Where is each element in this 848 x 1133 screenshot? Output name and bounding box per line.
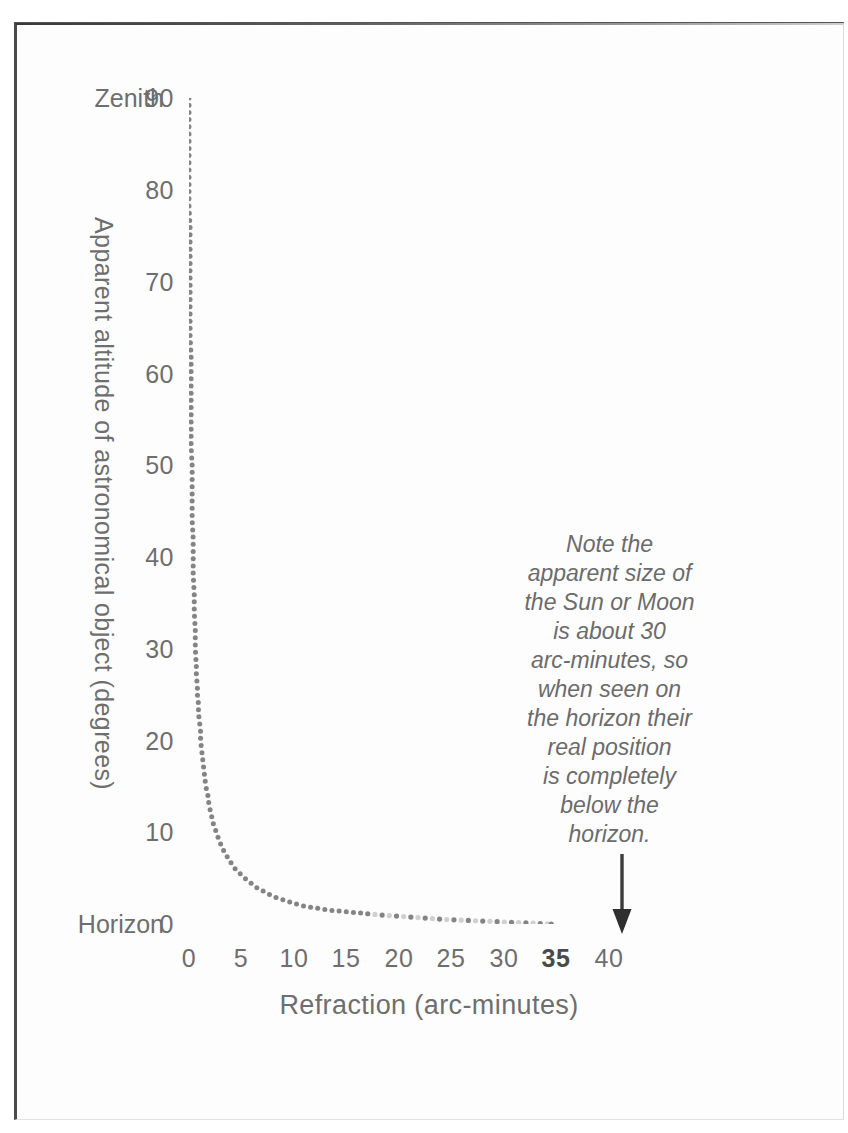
refraction-chart: Zenith Horizon 90 80 70 60 50 40 30 20 1… [14,22,844,1120]
y-tick-20: 20 [122,727,174,756]
x-tick-35: 35 [542,944,571,973]
annotation-line-4: is about 30 [502,617,717,646]
y-tick-30: 30 [122,635,174,664]
y-tick-90: 90 [122,84,174,113]
annotation-line-11: horizon. [502,820,717,849]
y-tick-10: 10 [122,818,174,847]
y-axis-title: Apparent altitude of astronomical object… [89,217,118,817]
x-tick-20: 20 [385,944,414,973]
x-tick-5: 5 [234,944,248,973]
x-tick-15: 15 [332,944,361,973]
annotation-line-10: below the [502,791,717,820]
annotation-arrow-icon [610,854,634,936]
annotation-line-3: the Sun or Moon [502,588,717,617]
y-tick-70: 70 [122,268,174,297]
x-tick-10: 10 [280,944,309,973]
annotation-line-6: when seen on [502,675,717,704]
x-tick-25: 25 [437,944,466,973]
x-tick-40: 40 [595,944,624,973]
annotation-line-7: the horizon their [502,704,717,733]
y-tick-0: 0 [122,910,174,939]
y-tick-80: 80 [122,176,174,205]
y-tick-50: 50 [122,451,174,480]
annotation-line-9: is completely [502,762,717,791]
x-tick-0: 0 [182,944,196,973]
x-tick-30: 30 [490,944,519,973]
annotation-line-5: arc-minutes, so [502,646,717,675]
x-axis-title: Refraction (arc-minutes) [14,990,844,1021]
y-tick-40: 40 [122,543,174,572]
annotation-line-1: Note the [502,530,717,559]
chart-annotation: Note the apparent size of the Sun or Moo… [502,530,717,849]
annotation-line-8: real position [502,733,717,762]
y-tick-60: 60 [122,360,174,389]
annotation-line-2: apparent size of [502,559,717,588]
